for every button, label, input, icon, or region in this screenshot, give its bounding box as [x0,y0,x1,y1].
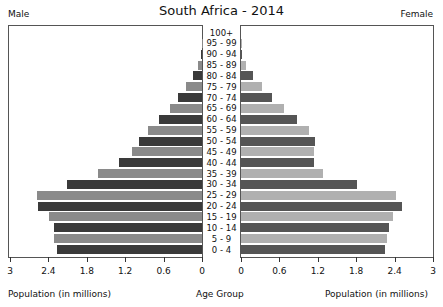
female-bar [241,191,396,200]
male-label: Male [8,9,29,19]
tick-label: 3 [0,266,25,276]
tick-label: 0.6 [264,266,294,276]
male-bar [139,137,202,146]
age-group-label: 75 - 79 [202,82,241,92]
male-bar [132,147,202,156]
tick-mark [241,257,242,262]
tick-label: 0 [226,266,256,276]
age-group-label: 80 - 84 [202,71,241,81]
female-bar [241,202,402,211]
female-bar [241,212,393,221]
age-group-label: 50 - 54 [202,136,241,146]
male-bar [119,158,202,167]
tick-label: 1.2 [110,266,140,276]
female-bar [241,50,242,59]
x-axis-label-left: Population (in millions) [8,289,111,299]
male-bar [67,180,202,189]
tick-mark [48,257,49,262]
male-bar [57,245,202,254]
age-group-label: 25 - 29 [202,190,241,200]
tick-mark [318,257,319,262]
female-bar [241,169,323,178]
female-bar [241,71,253,80]
male-bar [186,82,202,91]
male-bar [170,104,202,113]
tick-mark [202,257,203,262]
tick-mark [10,257,11,262]
female-bar [241,82,262,91]
tick-label: 1.8 [72,266,102,276]
female-bar [241,223,389,232]
x-axis-label-center: Age Group [196,289,244,299]
female-bar [241,93,272,102]
age-group-label: 0 - 4 [202,245,241,255]
age-group-label: 45 - 49 [202,147,241,157]
male-bar [54,234,202,243]
female-label: Female [400,9,433,19]
female-bar [241,104,284,113]
age-group-label: 65 - 69 [202,103,241,113]
tick-label: 0.6 [149,266,179,276]
female-bar [241,158,314,167]
female-bar [241,180,357,189]
tick-label: 0 [187,266,217,276]
tick-mark [356,257,357,262]
chart-title: South Africa - 2014 [0,3,443,18]
age-group-label: 20 - 24 [202,201,241,211]
age-group-label: 60 - 64 [202,114,241,124]
tick-label: 2.4 [380,266,410,276]
female-bar [241,147,314,156]
male-bar [178,93,202,102]
male-bar [159,115,202,124]
tick-label: 2.4 [33,266,63,276]
age-group-label: 95 - 99 [202,38,241,48]
male-bar [54,223,202,232]
tick-mark [395,257,396,262]
tick-label: 3 [418,266,443,276]
age-group-label: 70 - 74 [202,93,241,103]
female-bar [241,115,297,124]
age-group-label: 55 - 59 [202,125,241,135]
male-bar [49,212,202,221]
tick-mark [279,257,280,262]
age-group-label: 90 - 94 [202,49,241,59]
female-bar [241,126,309,135]
female-bar [241,245,385,254]
tick-label: 1.8 [341,266,371,276]
age-group-label: 85 - 89 [202,60,241,70]
female-bar [241,61,246,70]
male-bar [38,202,202,211]
female-bar [241,137,315,146]
male-bar [148,126,202,135]
tick-mark [87,257,88,262]
age-group-label: 10 - 14 [202,223,241,233]
age-group-label: 100+ [202,28,241,38]
male-bar [193,71,202,80]
x-axis-label-right: Population (in millions) [325,289,428,299]
age-group-label: 15 - 19 [202,212,241,222]
tick-mark [164,257,165,262]
male-bar [37,191,202,200]
female-bar [241,234,387,243]
tick-label: 1.2 [303,266,333,276]
age-group-label: 5 - 9 [202,234,241,244]
age-group-label: 35 - 39 [202,169,241,179]
male-bar [98,169,202,178]
age-group-label: 30 - 34 [202,179,241,189]
age-group-label: 40 - 44 [202,158,241,168]
tick-mark [125,257,126,262]
tick-mark [433,257,434,262]
female-bar [241,39,242,48]
